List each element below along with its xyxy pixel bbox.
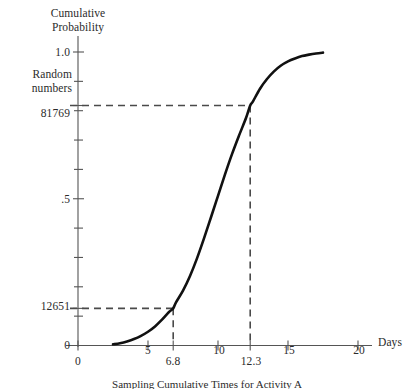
annotation-dashed-lines bbox=[70, 106, 250, 344]
y-tick-label-0: 0 bbox=[64, 339, 70, 352]
figure-caption: Sampling Cumulative Times for Activity A bbox=[112, 378, 302, 389]
random-numbers-caption: Random numbers bbox=[2, 68, 72, 95]
y-tick-label-1.0: 1.0 bbox=[55, 46, 70, 59]
y-axis-title-line1: Cumulative bbox=[23, 7, 133, 21]
callout-tick-marks bbox=[73, 106, 250, 351]
x-tick-label-10: 10 bbox=[213, 344, 225, 357]
x-tick-label-0: 0 bbox=[75, 355, 81, 368]
random-numbers-caption-line2: numbers bbox=[2, 82, 72, 96]
y-axis-title-line2: Probability bbox=[23, 21, 133, 35]
random-number-label-12651: 12651 bbox=[41, 300, 70, 313]
x-tick-label-20: 20 bbox=[353, 344, 365, 357]
y-axis-title: Cumulative Probability bbox=[23, 7, 133, 34]
random-number-label-81769: 81769 bbox=[41, 107, 70, 120]
x-tick-label-15: 15 bbox=[283, 344, 295, 357]
random-numbers-caption-line1: Random bbox=[2, 68, 72, 82]
x-callout-label-12.3: 12.3 bbox=[241, 355, 262, 368]
x-tick-label-5: 5 bbox=[145, 344, 151, 357]
cumulative-probability-chart: Cumulative Probability Random numbers 1.… bbox=[0, 0, 414, 389]
y-tick-label-0.5: .5 bbox=[61, 193, 70, 206]
x-callout-label-6.8: 6.8 bbox=[166, 355, 181, 368]
cumulative-probability-curve bbox=[113, 53, 323, 345]
x-axis-title: Days bbox=[378, 336, 402, 349]
